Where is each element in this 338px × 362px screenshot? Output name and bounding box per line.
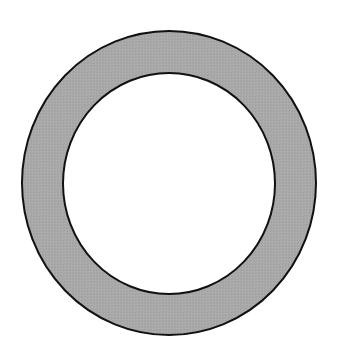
inner-circle-outline (63, 73, 275, 294)
ring-diagram (0, 0, 338, 362)
diagram-canvas (0, 0, 338, 362)
